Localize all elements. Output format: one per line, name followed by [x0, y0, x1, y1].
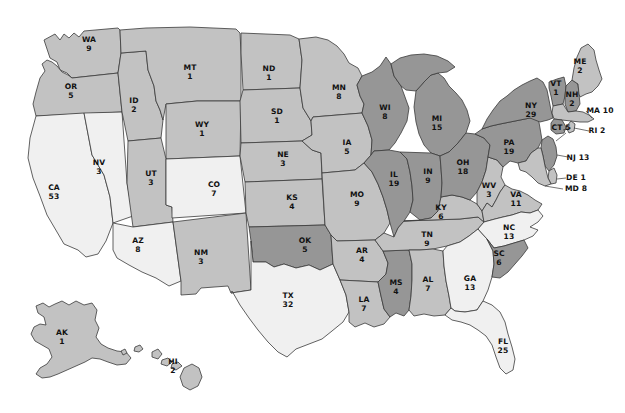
state-shape-HI-1[interactable] — [134, 345, 143, 352]
us-electoral-map: WA9OR5CA53NV3ID2MT1WY1UT3CO7AZ8NM3ND1SD1… — [0, 0, 625, 413]
state-shape-HI-6[interactable] — [180, 364, 202, 390]
leader-line-DE — [557, 178, 566, 179]
state-shape-MN[interactable] — [299, 37, 364, 121]
state-shape-CO[interactable] — [166, 156, 246, 218]
state-shape-HI-3[interactable] — [152, 349, 162, 359]
leader-line-RI — [574, 128, 589, 131]
us-map-svg — [0, 0, 625, 413]
leader-line-NJ — [557, 155, 568, 157]
leader-line-MD — [545, 186, 563, 189]
state-shape-WY[interactable] — [166, 101, 241, 159]
state-shape-FL[interactable] — [445, 301, 515, 374]
state-shape-CT[interactable] — [551, 119, 566, 134]
state-shape-RI[interactable] — [566, 121, 575, 133]
state-shape-HI-4[interactable] — [161, 358, 172, 366]
state-shape-KS[interactable] — [245, 179, 325, 227]
state-shape-VT[interactable] — [549, 77, 566, 106]
state-shape-AK[interactable] — [31, 301, 131, 378]
state-shape-ND[interactable] — [241, 33, 302, 90]
state-shape-HI-5[interactable] — [171, 362, 182, 370]
state-shape-AZ[interactable] — [113, 222, 181, 286]
state-shape-NM[interactable] — [173, 213, 251, 295]
